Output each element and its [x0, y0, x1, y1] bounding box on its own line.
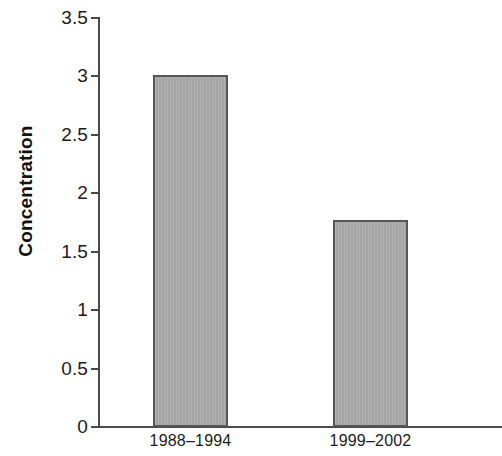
y-axis-tick-label: 1	[32, 300, 88, 319]
chart-figure: Concentration 00.511.522.533.5 1988–1994…	[0, 0, 502, 456]
x-axis-tick-label: 1988–1994	[121, 432, 261, 450]
y-axis-tick	[91, 251, 99, 253]
y-axis-tick-label: 1.5	[32, 242, 88, 261]
y-axis-tick-label: 2.5	[32, 125, 88, 144]
x-axis-tick-label: 1999–2002	[301, 432, 441, 450]
y-axis-tick	[91, 426, 101, 428]
y-axis-line	[98, 17, 100, 428]
y-axis-tick-label: 3.5	[32, 8, 88, 27]
y-axis-tick-label: 0	[32, 417, 88, 436]
y-axis-tick	[91, 75, 99, 77]
y-axis-tick	[91, 134, 99, 136]
y-axis-tick-label: 2	[32, 183, 88, 202]
y-axis-tick	[91, 192, 99, 194]
bar	[153, 75, 228, 427]
y-axis-tick	[91, 368, 99, 370]
y-axis-tick	[91, 309, 99, 311]
y-axis-tick-label: 0.5	[32, 359, 88, 378]
y-axis-tick-label: 3	[32, 66, 88, 85]
y-axis-tick	[91, 17, 99, 19]
bar	[333, 220, 408, 427]
